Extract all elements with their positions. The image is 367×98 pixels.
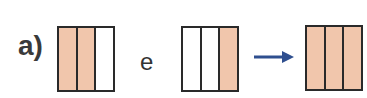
fraction-part: [218, 28, 237, 90]
fraction-part: [59, 28, 76, 90]
fraction-part: [342, 27, 361, 89]
fraction-part: [200, 28, 219, 90]
fraction-part: [94, 28, 113, 90]
fraction-bar-first: [57, 26, 115, 92]
fraction-part: [183, 28, 200, 90]
fraction-part: [76, 28, 95, 90]
fraction-part: [324, 27, 343, 89]
fraction-bar-second: [181, 26, 239, 92]
conjunction-text: e: [140, 48, 153, 76]
fraction-bar-result: [305, 25, 363, 91]
item-label: a): [18, 30, 43, 62]
fraction-part: [307, 27, 324, 89]
arrow-right-icon: [252, 50, 296, 64]
